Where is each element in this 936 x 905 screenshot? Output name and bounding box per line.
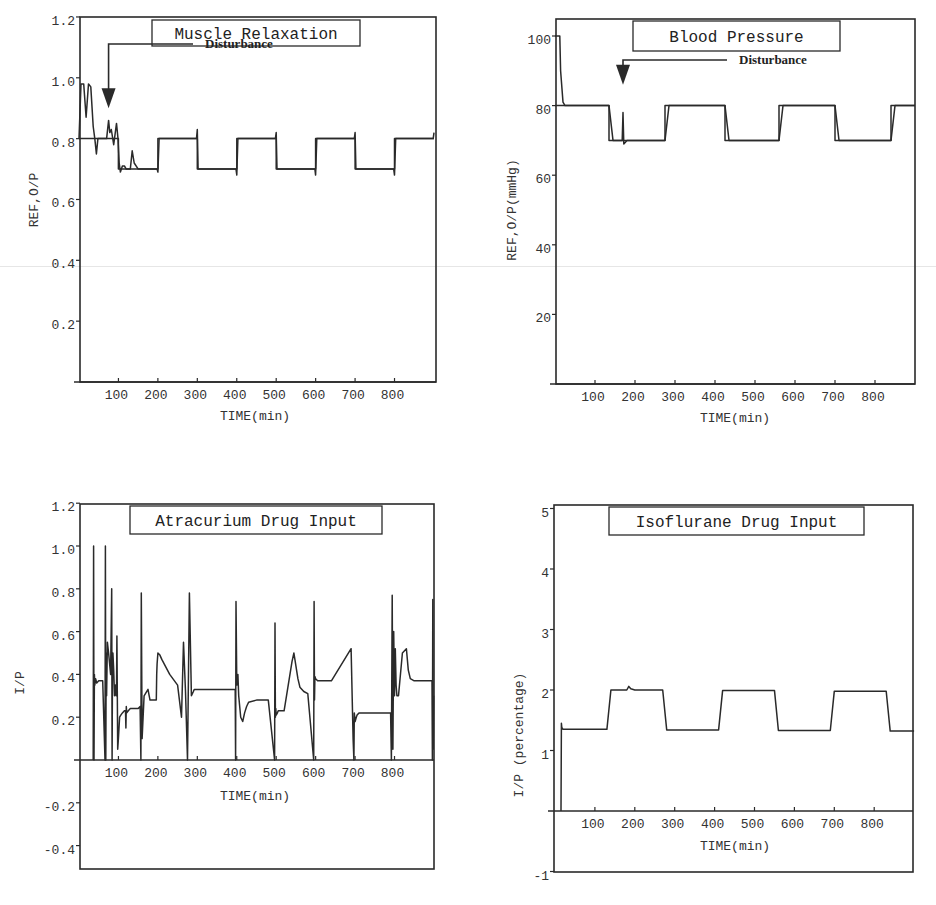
y-axis-title: I/P (percentage) <box>512 673 527 798</box>
x-tick-label: 400 <box>701 817 724 832</box>
x-tick-label: 200 <box>621 817 644 832</box>
x-tick-label: 300 <box>661 817 684 832</box>
y-tick-label: -1 <box>533 869 549 884</box>
y-tick-label: 1 <box>541 748 549 763</box>
plot-frame <box>554 505 913 872</box>
chart-svg: 100200300400500600700800-112345TIME(min)… <box>0 0 936 905</box>
y-tick-label: 4 <box>541 566 549 581</box>
x-tick-label: 800 <box>860 817 883 832</box>
x-axis-title: TIME(min) <box>700 839 770 854</box>
chart-isoflurane-drug-input: 100200300400500600700800-112345TIME(min)… <box>0 0 936 905</box>
y-tick-label: 2 <box>541 687 549 702</box>
x-tick-label: 600 <box>781 817 804 832</box>
x-tick-label: 700 <box>821 817 844 832</box>
x-tick-label: 500 <box>741 817 764 832</box>
chart-title: Isoflurane Drug Input <box>636 514 838 532</box>
series-line-i-p <box>561 686 914 811</box>
y-tick-label: 3 <box>541 627 549 642</box>
y-tick-label: 5 <box>541 506 549 521</box>
x-tick-label: 100 <box>581 817 604 832</box>
